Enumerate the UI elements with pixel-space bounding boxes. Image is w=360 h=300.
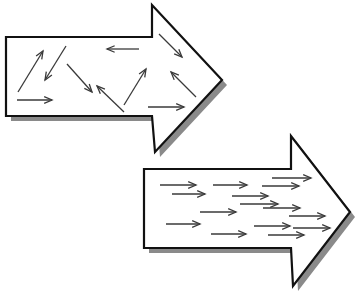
disordered-arrow <box>6 5 222 152</box>
disordered-arrow-outline <box>6 5 222 152</box>
arrow-diagram-svg <box>0 0 360 300</box>
figure-canvas <box>0 0 360 300</box>
